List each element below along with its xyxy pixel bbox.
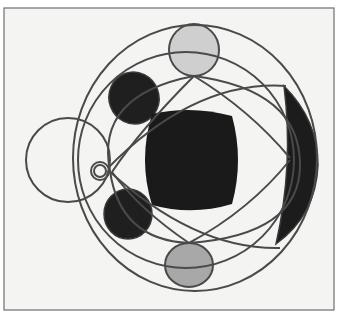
bottom-gray-pane [165, 243, 213, 287]
photo-frame [0, 0, 340, 317]
top-light-pane [169, 24, 219, 76]
ornament-illustration [0, 0, 340, 317]
